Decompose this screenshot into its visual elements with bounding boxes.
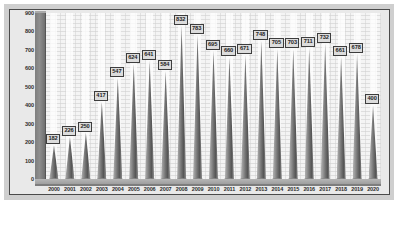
cone-bar [369,105,378,179]
cone-body [241,55,250,179]
x-axis-tick: 2019 [351,186,363,192]
plot-area: 1822262504175476246415848327836956606717… [46,13,381,179]
x-axis-tick: 2005 [128,186,140,192]
cone-body [273,49,282,179]
data-label: 732 [317,33,331,43]
axis-wall-3d [35,13,46,183]
data-label: 584 [158,60,172,70]
cone-body [113,78,122,179]
x-axis-tick: 2014 [271,186,283,192]
data-label: 182 [46,134,60,144]
cone-bar [65,137,74,179]
cone-body [49,145,58,179]
cone-body [81,133,90,179]
cone-body [225,57,234,179]
x-axis-tick: 2008 [176,186,188,192]
data-label: 678 [349,43,363,53]
data-label: 660 [221,46,235,56]
y-axis-tick: 800 [25,28,34,34]
data-label: 671 [237,44,251,54]
data-label: 783 [190,24,204,34]
y-axis-tick: 500 [25,84,34,90]
cone-bar [289,49,298,179]
x-axis-tick: 2015 [287,186,299,192]
cone-body [97,102,106,179]
data-label: 250 [78,122,92,132]
y-axis-tick: 400 [25,102,34,108]
x-axis-tick: 2003 [96,186,108,192]
x-axis-tick: 2006 [144,186,156,192]
x-axis-tick: 2002 [80,186,92,192]
data-label: 832 [174,15,188,25]
y-axis-tick: 0 [31,176,34,182]
cone-bar [305,48,314,179]
cone-bar [337,57,346,179]
x-axis-tick: 2010 [208,186,220,192]
cone-bar [273,49,282,179]
cone-body [337,57,346,179]
x-axis-tick: 2020 [367,186,379,192]
cone-body [145,61,154,179]
cone-bar [225,57,234,179]
data-label: 695 [206,40,220,50]
cone-bar [113,78,122,179]
cone-bar [145,61,154,179]
x-axis-tick: 2012 [240,186,252,192]
y-axis-tick: 600 [25,65,34,71]
y-axis-tick: 900 [25,10,34,16]
cone-bar [193,35,202,179]
cone-body [289,49,298,179]
y-axis-tick: 200 [25,139,34,145]
data-label: 705 [269,38,283,48]
data-label: 547 [110,67,124,77]
data-label: 624 [126,53,140,63]
y-axis-tick: 300 [25,121,34,127]
cone-body [369,105,378,179]
x-axis-tick: 2004 [112,186,124,192]
x-axis-tick: 2007 [160,186,172,192]
cone-body [321,44,330,179]
y-axis-tick: 700 [25,47,34,53]
y-axis-tick: 100 [25,158,34,164]
cone-bar [97,102,106,179]
cone-bar [129,64,138,179]
x-axis-tick: 2017 [319,186,331,192]
data-label: 400 [365,94,379,104]
x-axis-tick: 2018 [335,186,347,192]
cone-body [177,26,186,179]
cone-bar [321,44,330,179]
data-label: 226 [62,126,76,136]
x-axis-tick: 2000 [48,186,60,192]
x-axis-tick: 2001 [64,186,76,192]
chart-caption [10,210,393,218]
cone-body [257,41,266,179]
data-label: 641 [142,50,156,60]
cone-body [161,71,170,179]
data-label: 417 [94,91,108,101]
cone-bar [241,55,250,179]
data-label: 703 [285,38,299,48]
cone-bar [49,145,58,179]
cone-bar [161,71,170,179]
y-axis-tick-labels: 9008007006005004003002001000 [10,10,35,185]
x-axis-tick: 2013 [256,186,268,192]
x-axis-tick: 2016 [303,186,315,192]
chart-screenshot: 9008007006005004003002001000 18222625041… [0,0,403,226]
cone-body [353,54,362,179]
data-label: 748 [253,30,267,40]
cone-body [209,51,218,179]
cone-bar [81,133,90,179]
data-label: 661 [333,46,347,56]
cone-body [305,48,314,179]
cone-bar [257,41,266,179]
x-axis-tick: 2011 [224,186,235,192]
cone-body [129,64,138,179]
cone-bar [353,54,362,179]
x-axis-tick: 2009 [192,186,204,192]
cone-bar [177,26,186,179]
x-axis-tick-labels: 2000200120022003200420052006200720082009… [46,186,381,196]
cone-body [65,137,74,179]
data-label: 711 [301,37,315,47]
cone-bar [209,51,218,179]
cone-body [193,35,202,179]
